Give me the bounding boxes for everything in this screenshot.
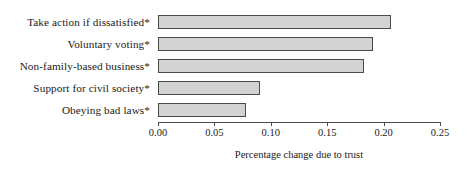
x-axis-tick [384,122,385,126]
category-label: Take action if dissatisfied* [27,17,154,28]
category-label: Voluntary voting* [67,39,154,50]
x-axis-tick [440,122,441,126]
x-axis-tick-label: 0.10 [262,128,280,139]
bar-chart: Take action if dissatisfied* Voluntary v… [0,0,467,170]
bar-row [158,56,440,78]
category-label: Obeying bad laws* [62,105,154,116]
x-axis-tick [214,122,215,126]
plot-area [158,12,440,122]
x-axis-tick-label: 0.20 [374,128,392,139]
category-label-row: Support for civil society* [0,78,154,100]
bar [158,15,391,29]
category-axis-labels: Take action if dissatisfied* Voluntary v… [0,12,154,122]
x-axis-line [158,122,440,123]
x-axis-tick-label: 0.15 [318,128,336,139]
x-axis-title: Percentage change due to trust [158,150,440,161]
bar [158,59,364,73]
bar [158,37,373,51]
category-label-row: Take action if dissatisfied* [0,12,154,34]
bar [158,81,260,95]
bar-row [158,100,440,122]
x-axis-tick [158,122,159,126]
bar [158,103,246,117]
category-label: Support for civil society* [33,83,154,94]
bar-row [158,12,440,34]
category-label: Non-family-based business* [20,61,154,72]
x-axis-tick-label: 0.00 [149,128,167,139]
bar-row [158,34,440,56]
x-axis-tick [327,122,328,126]
x-axis-tick-label: 0.05 [205,128,223,139]
bar-row [158,78,440,100]
category-label-row: Obeying bad laws* [0,100,154,122]
category-label-row: Non-family-based business* [0,56,154,78]
x-axis-tick [271,122,272,126]
x-axis-tick-label: 0.25 [431,128,449,139]
category-label-row: Voluntary voting* [0,34,154,56]
